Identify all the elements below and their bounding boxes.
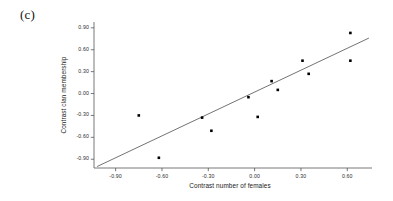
- data-point: [256, 116, 259, 119]
- data-point: [201, 116, 204, 119]
- data-point: [137, 114, 140, 117]
- y-tick-label: -0.90: [64, 157, 89, 162]
- x-tick-label: -0.30: [202, 174, 215, 179]
- regression-line-segment: [97, 38, 369, 166]
- data-points: [137, 32, 351, 159]
- data-point: [210, 129, 213, 132]
- data-point: [247, 96, 250, 99]
- data-point: [349, 32, 352, 35]
- data-point: [158, 156, 161, 159]
- y-tick-label: 0.00: [64, 91, 89, 96]
- data-point: [301, 59, 304, 62]
- y-axis-title: Contrast clan membership: [61, 57, 67, 134]
- x-tick-label: -0.60: [156, 174, 169, 179]
- axes: [91, 22, 372, 171]
- x-tick-label: 0.60: [342, 174, 353, 179]
- x-tick-label: 0.00: [249, 174, 260, 179]
- y-tick-label: 0.30: [64, 69, 89, 74]
- data-point: [270, 80, 273, 83]
- data-point: [349, 59, 352, 62]
- data-point: [276, 89, 279, 92]
- regression-line: [97, 38, 369, 166]
- x-tick-label: 0.30: [296, 174, 307, 179]
- data-point: [307, 73, 310, 76]
- y-tick-label: -0.60: [64, 135, 89, 140]
- figure-panel-c: (c) -0.90-0.60-0.300.000.300.60 -0.90-0.…: [0, 0, 393, 201]
- x-axis-title: Contrast number of females: [189, 183, 270, 189]
- y-tick-label: 0.90: [64, 25, 89, 30]
- y-tick-label: 0.60: [64, 47, 89, 52]
- x-tick-label: -0.90: [109, 174, 122, 179]
- y-tick-label: -0.30: [64, 113, 89, 118]
